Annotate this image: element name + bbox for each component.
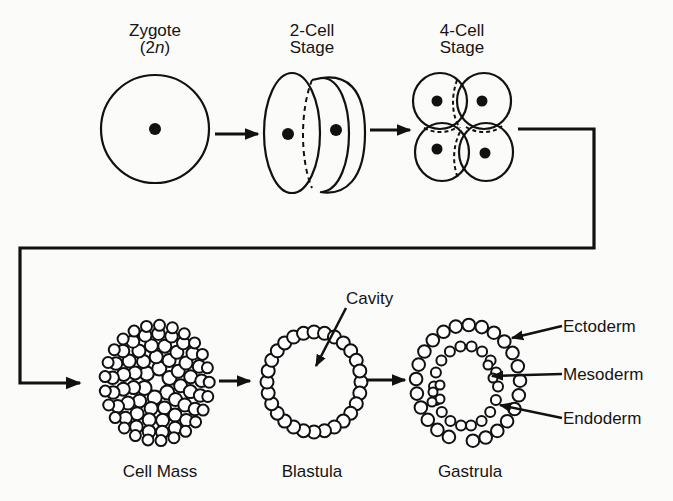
cell-icon [109,344,120,355]
cell-icon [498,335,511,348]
cell-icon [437,326,450,339]
cell-icon [202,391,213,402]
cell-icon [512,360,525,373]
cell-icon [141,321,152,332]
cell-icon [167,322,178,333]
cell-icon [410,373,423,386]
cell-icon [119,423,130,434]
mesoderm-label: Mesoderm [563,366,643,383]
cell-icon [491,395,501,405]
nucleus-icon [432,144,443,155]
cell-icon [437,407,447,417]
nucleus-icon [480,148,491,159]
nucleus-icon [330,124,342,136]
cell-icon [189,337,200,348]
cell-icon [513,389,526,402]
cell-icon [103,357,114,368]
cell-icon [204,377,215,388]
four-cell-stage [413,73,513,181]
cell-icon [103,400,114,411]
cell-icon [100,371,111,382]
cell-icon [143,434,154,445]
cell-icon [427,334,440,347]
cell-icon [428,398,437,407]
cell-icon [154,320,165,331]
cell-mass [99,320,215,446]
cell-icon [506,347,519,360]
cell-icon [445,346,455,356]
cell-icon [431,368,441,378]
cell-icon [479,431,492,444]
cell-icon [450,320,463,333]
two-cell-stage [264,73,365,193]
nucleus-icon [432,96,443,107]
blastula [261,326,368,439]
cell-icon [484,361,493,370]
two-cell-label: 2-Cell Stage [272,22,352,56]
four-cell-label: 4-Cell Stage [422,22,502,56]
cell-icon [488,326,501,339]
cell-icon [445,416,455,426]
cell-icon [156,435,167,446]
cell-icon [415,401,428,414]
cell-icon [202,362,213,373]
ectoderm-pointer-arrow [512,326,562,338]
cell-icon [463,319,476,332]
zygote-cell [101,75,209,183]
cell-icon [168,432,179,443]
cell-icon [455,342,465,352]
zygote-label: Zygote (2n) [105,22,205,56]
cell-icon [179,328,190,339]
blastula-label: Blastula [262,463,362,480]
cell-icon [466,421,476,431]
nucleus-icon [477,96,488,107]
cell-icon [418,345,431,358]
cell-icon [411,387,424,400]
cell-icon [353,364,366,377]
cell-icon [110,412,121,423]
cell-mass-label: Cell Mass [105,463,215,480]
cell-icon [501,415,514,428]
gastrula-label: Gastrula [420,463,520,480]
gastrula [410,319,526,447]
cell-icon [100,386,111,397]
cell-icon [412,358,425,371]
cavity-label: Cavity [346,290,393,307]
cell-icon [436,381,445,390]
cell-icon [197,349,208,360]
cell-icon [129,326,140,337]
nucleus-icon [282,128,294,140]
cell-icon [443,431,456,444]
endoderm-label: Endoderm [563,410,641,427]
cell-icon [180,426,191,437]
cell-icon [436,355,446,365]
cell-icon [477,346,487,356]
cell-icon [190,416,201,427]
cell-icon [198,405,209,416]
mesoderm-pointer-arrow [492,374,562,376]
cell-icon [130,430,141,441]
cell-icon [467,434,480,447]
cell-icon [118,334,129,345]
nucleus-icon [149,123,161,135]
cell-icon [467,342,477,352]
cell-icon [491,425,504,438]
cell-icon [431,424,444,437]
cell-icon [422,414,435,427]
cell-icon [456,421,466,431]
ectoderm-label: Ectoderm [563,318,636,335]
cell-icon [477,416,487,426]
cell-icon [485,407,495,417]
cell-icon [476,321,489,334]
